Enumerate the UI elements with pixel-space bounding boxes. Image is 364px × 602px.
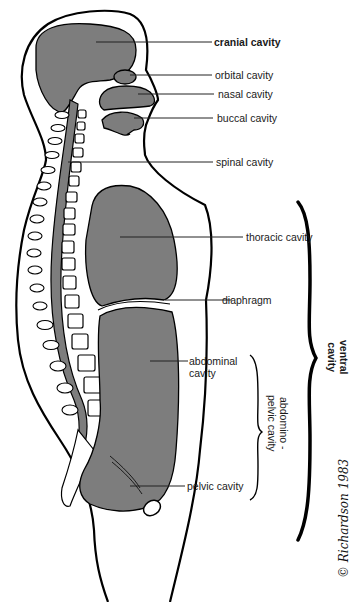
label-spinal-cavity: spinal cavity bbox=[216, 156, 273, 168]
anatomy-illustration bbox=[0, 0, 364, 602]
label-ventral-cavity: ventral cavity bbox=[326, 340, 350, 374]
label-diaphragm: diaphragm bbox=[222, 294, 272, 306]
label-abdominal-cavity: abdominal cavity bbox=[189, 355, 237, 379]
label-abdominopelvic-cavity: abdomino - pelvic cavity bbox=[266, 395, 290, 452]
body-cavities-diagram: cranial cavity orbital cavity nasal cavi… bbox=[0, 0, 364, 602]
label-orbital-cavity: orbital cavity bbox=[215, 69, 273, 81]
label-pelvic-cavity: pelvic cavity bbox=[187, 480, 244, 492]
nasal-cavity-shape bbox=[100, 86, 155, 110]
label-thoracic-cavity: thoracic cavity bbox=[246, 231, 313, 243]
orbital-cavity-shape bbox=[114, 70, 136, 84]
label-cranial-cavity: cranial cavity bbox=[214, 36, 281, 48]
ventral-bracket bbox=[298, 202, 316, 540]
copyright-signature: © Richardson 1983 bbox=[337, 459, 351, 578]
label-buccal-cavity: buccal cavity bbox=[217, 112, 277, 124]
label-nasal-cavity: nasal cavity bbox=[218, 88, 273, 100]
abdominopelvic-bracket bbox=[250, 355, 262, 500]
